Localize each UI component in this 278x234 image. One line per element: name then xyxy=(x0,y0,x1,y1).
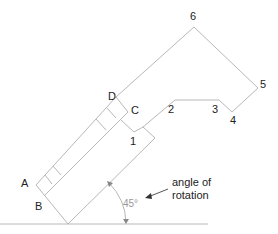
edge-1-2 xyxy=(134,127,143,132)
label-3: 3 xyxy=(212,103,218,115)
label-c: C xyxy=(131,104,139,116)
annotation-line-1: angle of xyxy=(172,176,212,188)
arc-arrowhead-bottom xyxy=(123,219,129,224)
edge-d-c xyxy=(116,97,128,112)
rotation-diagram: A B C D 1 2 3 4 5 6 45° angle of rotatio… xyxy=(0,0,278,234)
label-a: A xyxy=(21,177,29,189)
shape-outline xyxy=(36,27,258,224)
strip-tick xyxy=(96,119,106,130)
label-5: 5 xyxy=(260,78,266,90)
strip-inner-edge xyxy=(44,112,128,196)
strip-tick xyxy=(53,166,61,175)
label-1: 1 xyxy=(130,135,136,147)
angle-value-label: 45° xyxy=(123,198,138,209)
edge-c-1 xyxy=(121,120,134,132)
label-d: D xyxy=(108,90,116,102)
label-4: 4 xyxy=(230,114,236,126)
annotation-arrowhead xyxy=(145,193,152,199)
label-2: 2 xyxy=(168,103,174,115)
strip-tick xyxy=(107,108,116,118)
label-b: B xyxy=(35,200,42,212)
label-6: 6 xyxy=(190,10,196,22)
strip-tick xyxy=(45,175,52,184)
annotation-line-2: rotation xyxy=(172,189,209,201)
